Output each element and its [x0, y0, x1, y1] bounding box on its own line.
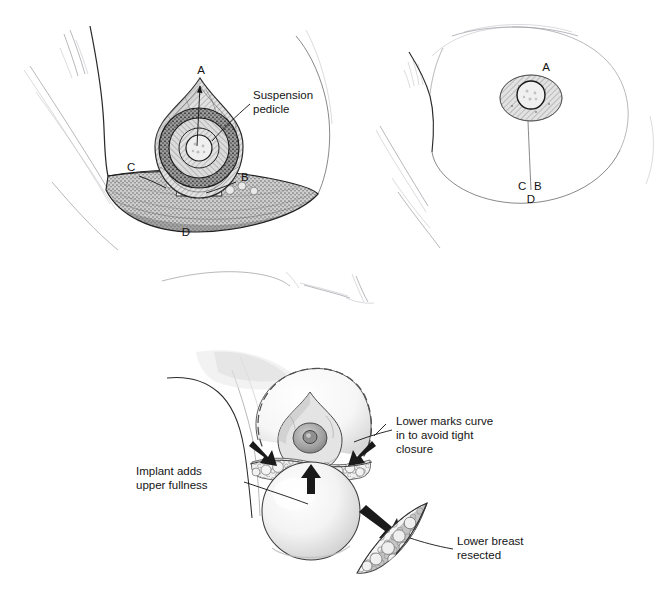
torso-inner-line: [232, 370, 260, 516]
arm-inner-line-3: [36, 92, 116, 210]
left-arm-sketch: [376, 126, 440, 248]
callout-lower-marks-line2: in to avoid tight: [396, 429, 474, 441]
label-d-oblique: D: [182, 226, 190, 238]
label-a-frontal: A: [542, 61, 550, 73]
label-b-oblique: B: [241, 171, 249, 183]
middle-sketch-strokes: [162, 272, 374, 304]
callout-lower-marks-line3: closure: [396, 443, 433, 455]
leader-lower-marks-tick: [374, 424, 386, 436]
sketch-strokes-axilla: [404, 60, 423, 88]
label-b-frontal: B: [534, 180, 542, 192]
breast-upper-contour: [432, 27, 512, 56]
callout-implant-line2: upper fullness: [136, 479, 208, 491]
callout-suspension-pedicle-line2: pedicle: [253, 103, 289, 115]
panel-upper-left: A B C D Suspension pedicle: [24, 26, 332, 250]
nipple-frontal: [517, 81, 545, 109]
torso-chest-line: [90, 26, 108, 176]
label-c-frontal: C: [518, 180, 526, 192]
illustration-root: A B C D Suspension pedicle: [0, 0, 664, 593]
panel-upper-right: A C B D: [376, 25, 653, 249]
label-d-frontal: D: [527, 193, 535, 205]
label-c-oblique: C: [127, 161, 135, 173]
breast-right-contour: [296, 36, 330, 194]
body-right-edge: [646, 116, 653, 184]
nipple: [186, 135, 212, 161]
surgical-illustration-svg: A B C D Suspension pedicle: [0, 0, 664, 593]
midline-contour-upper: [430, 48, 443, 94]
leader-resected: [410, 538, 453, 549]
callout-suspension-pedicle-line1: Suspension: [253, 89, 313, 101]
arm-inner-line-2: [24, 70, 110, 204]
panel-lower: Implant adds upper fullness Lower marks …: [136, 350, 524, 576]
sketch-strokes-shoulder: [60, 30, 88, 78]
areola-frontal: [500, 75, 562, 121]
label-a-oblique: A: [197, 64, 205, 76]
callout-lower-marks-line1: Lower marks curve: [396, 415, 493, 427]
callout-resected-line2: resected: [457, 549, 501, 561]
callout-resected-line1: Lower breast: [457, 535, 524, 547]
callout-implant-line1: Implant adds: [136, 465, 202, 477]
torso-shoulder-line: [167, 378, 252, 518]
vertical-incision-mark: [528, 121, 531, 190]
midline-contour: [409, 52, 433, 152]
areola-rings: [159, 108, 239, 188]
